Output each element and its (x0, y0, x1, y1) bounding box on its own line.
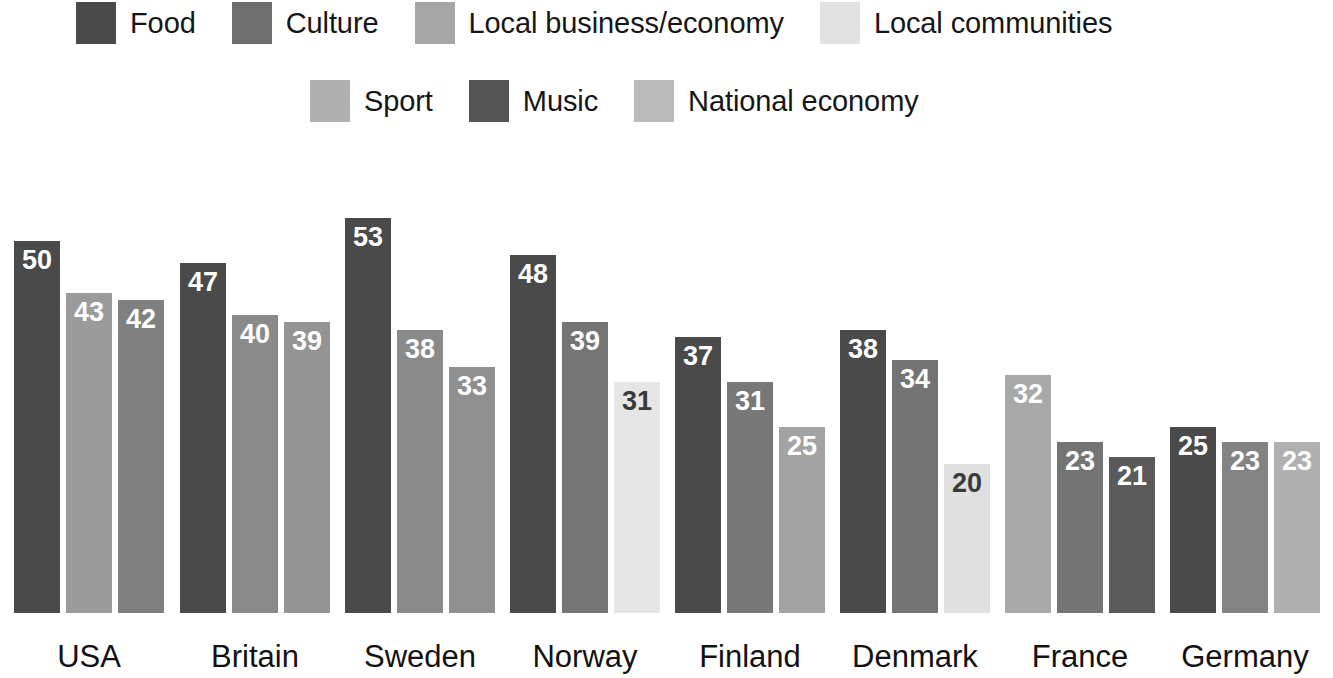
bar-finland-2[interactable]: 25 (779, 427, 825, 613)
legend-item-national-economy[interactable]: National economy (634, 80, 919, 122)
bar-value-label: 53 (345, 224, 391, 251)
bar-value-label: 43 (66, 299, 112, 326)
bar-denmark-1[interactable]: 34 (892, 360, 938, 613)
legend-swatch-local-communities (820, 2, 860, 44)
bar-france-1[interactable]: 23 (1057, 442, 1103, 613)
legend-label-national-economy: National economy (688, 87, 919, 116)
legend-swatch-food (76, 2, 116, 44)
x-axis-label-germany: Germany (1170, 641, 1320, 672)
bar-finland-1[interactable]: 31 (727, 382, 773, 613)
bar-value-label: 42 (118, 306, 164, 333)
bar-value-label: 21 (1109, 463, 1155, 490)
bar-usa-0[interactable]: 50 (14, 241, 60, 614)
bar-value-label: 33 (449, 373, 495, 400)
bar-usa-2[interactable]: 42 (118, 300, 164, 613)
bar-group-usa: 504342 (14, 150, 164, 613)
x-axis-label-sweden: Sweden (345, 641, 495, 672)
bar-germany-2[interactable]: 23 (1274, 442, 1320, 613)
x-axis-label-finland: Finland (675, 641, 825, 672)
bar-value-label: 47 (180, 269, 226, 296)
legend-swatch-music (469, 80, 509, 122)
bar-value-label: 31 (614, 388, 660, 415)
bar-value-label: 25 (1170, 433, 1216, 460)
legend-swatch-sport (310, 80, 350, 122)
bar-value-label: 38 (840, 336, 886, 363)
bar-value-label: 50 (14, 247, 60, 274)
bar-value-label: 23 (1222, 448, 1268, 475)
bar-value-label: 39 (284, 328, 330, 355)
bar-usa-1[interactable]: 43 (66, 293, 112, 613)
legend-swatch-local-business-economy (415, 2, 455, 44)
legend-swatch-national-economy (634, 80, 674, 122)
chart-legend: FoodCultureLocal business/economyLocal c… (0, 0, 1333, 150)
bar-value-label: 25 (779, 433, 825, 460)
bar-britain-1[interactable]: 40 (232, 315, 278, 613)
bar-value-label: 23 (1057, 448, 1103, 475)
bar-value-label: 39 (562, 328, 608, 355)
x-axis-label-usa: USA (14, 641, 164, 672)
bar-value-label: 38 (397, 336, 443, 363)
bar-group-norway: 483931 (510, 150, 660, 613)
bar-value-label: 32 (1005, 381, 1051, 408)
bar-norway-0[interactable]: 48 (510, 255, 556, 613)
legend-label-music: Music (523, 87, 598, 116)
legend-item-music[interactable]: Music (469, 80, 598, 122)
bar-norway-1[interactable]: 39 (562, 322, 608, 613)
bar-value-label: 20 (944, 470, 990, 497)
bar-france-2[interactable]: 21 (1109, 457, 1155, 613)
bar-value-label: 48 (510, 261, 556, 288)
bar-sweden-1[interactable]: 38 (397, 330, 443, 613)
legend-item-culture[interactable]: Culture (232, 2, 379, 44)
bar-group-germany: 252323 (1170, 150, 1320, 613)
legend-item-sport[interactable]: Sport (310, 80, 433, 122)
bar-finland-0[interactable]: 37 (675, 337, 721, 613)
bar-denmark-0[interactable]: 38 (840, 330, 886, 613)
x-axis-label-britain: Britain (180, 641, 330, 672)
legend-label-sport: Sport (364, 87, 433, 116)
bar-group-sweden: 533833 (345, 150, 495, 613)
bar-group-france: 322321 (1005, 150, 1155, 613)
legend-item-local-communities[interactable]: Local communities (820, 2, 1112, 44)
bar-value-label: 37 (675, 343, 721, 370)
x-axis-label-france: France (1005, 641, 1155, 672)
legend-row-secondary: SportMusicNational economy (310, 80, 955, 122)
x-axis-label-norway: Norway (510, 641, 660, 672)
bar-group-denmark: 383420 (840, 150, 990, 613)
x-axis-label-denmark: Denmark (840, 641, 990, 672)
bar-group-britain: 474039 (180, 150, 330, 613)
bar-germany-0[interactable]: 25 (1170, 427, 1216, 613)
bar-norway-2[interactable]: 31 (614, 382, 660, 613)
legend-item-local-business-economy[interactable]: Local business/economy (415, 2, 784, 44)
bar-chart-plot-area: 504342USA474039Britain533833Sweden483931… (0, 150, 1333, 678)
bar-group-finland: 373125 (675, 150, 825, 613)
bar-france-0[interactable]: 32 (1005, 375, 1051, 613)
bar-britain-0[interactable]: 47 (180, 263, 226, 613)
bar-value-label: 40 (232, 321, 278, 348)
bar-sweden-2[interactable]: 33 (449, 367, 495, 613)
legend-swatch-culture (232, 2, 272, 44)
bar-value-label: 34 (892, 366, 938, 393)
bar-germany-1[interactable]: 23 (1222, 442, 1268, 613)
bar-value-label: 23 (1274, 448, 1320, 475)
bar-value-label: 31 (727, 388, 773, 415)
legend-item-food[interactable]: Food (76, 2, 196, 44)
legend-label-local-business-economy: Local business/economy (469, 9, 784, 38)
bar-sweden-0[interactable]: 53 (345, 218, 391, 613)
legend-label-local-communities: Local communities (874, 9, 1112, 38)
legend-row-primary: FoodCultureLocal business/economyLocal c… (76, 2, 1148, 44)
legend-label-food: Food (130, 9, 196, 38)
bar-britain-2[interactable]: 39 (284, 322, 330, 613)
bar-denmark-2[interactable]: 20 (944, 464, 990, 613)
legend-label-culture: Culture (286, 9, 379, 38)
